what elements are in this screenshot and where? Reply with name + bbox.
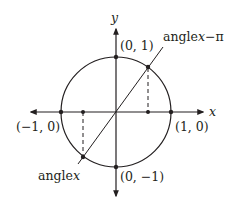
x-axis-label: x — [209, 104, 216, 119]
point-projection-upper — [146, 110, 150, 114]
point-bottom — [114, 165, 118, 169]
label-point-left: (−1, 0) — [16, 119, 60, 134]
point-angle-x — [81, 155, 85, 159]
label-point-right: (1, 0) — [175, 119, 209, 134]
y-axis-label: y — [110, 10, 119, 25]
label-angle-x-minus-pi: anglex−π — [163, 29, 224, 44]
label-angle-x: anglex — [38, 168, 80, 183]
point-right — [169, 110, 173, 114]
point-left — [59, 110, 63, 114]
label-point-bottom: (0, −1) — [120, 169, 164, 184]
unit-circle-diagram: y x (0, 1) (0, −1) (−1, 0) (1, 0) anglex… — [0, 0, 236, 207]
label-point-top: (0, 1) — [120, 38, 154, 53]
point-top — [114, 55, 118, 59]
angle-ray-line — [78, 47, 163, 164]
point-projection-lower — [81, 110, 85, 114]
point-angle-x-minus-pi — [146, 65, 150, 69]
